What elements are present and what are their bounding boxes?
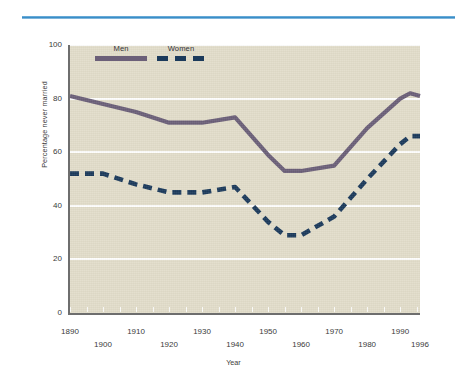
x-axis-tick-label: 1970: [314, 327, 354, 336]
y-axis-tick-label: 80: [22, 94, 62, 103]
legend-item-men[interactable]: Men: [95, 44, 147, 61]
legend-item-women[interactable]: Women: [157, 44, 205, 61]
x-axis-tick-label: 1980: [347, 340, 387, 349]
chart-legend: MenWomen: [95, 44, 235, 74]
y-axis-tick-label: 40: [22, 201, 62, 210]
x-axis-tick-label: 1996: [400, 340, 440, 349]
x-axis-line: [68, 313, 420, 315]
x-axis-tick-label: 1890: [50, 327, 90, 336]
legend-swatch-solid: [95, 56, 147, 61]
y-axis-tick-label: 20: [22, 254, 62, 263]
chart-figure: Percentage never married 020406080100 18…: [0, 0, 467, 385]
legend-label: Women: [157, 44, 205, 53]
plot-area: [70, 45, 420, 313]
x-axis-tick-label: 1900: [83, 340, 123, 349]
series-line-women: [70, 136, 420, 235]
legend-swatch-dashed: [157, 56, 205, 61]
x-axis-tick-label: 1950: [248, 327, 288, 336]
series-plot: [70, 45, 420, 313]
series-line-men: [70, 93, 420, 171]
x-axis-tick-label: 1940: [215, 340, 255, 349]
y-axis-tick-label: 60: [22, 147, 62, 156]
legend-label: Men: [95, 44, 147, 53]
y-axis-title: Percentage never married: [40, 45, 49, 205]
x-axis-title: Year: [0, 358, 467, 367]
x-axis-tick-label: 1930: [182, 327, 222, 336]
x-axis-tick-label: 1920: [149, 340, 189, 349]
y-axis-tick-label: 0: [22, 308, 62, 317]
y-axis-tick-label: 100: [22, 40, 62, 49]
divider-rule: [22, 16, 455, 19]
x-axis-tick-label: 1990: [380, 327, 420, 336]
x-axis-tick-label: 1910: [116, 327, 156, 336]
x-axis-tick-label: 1960: [281, 340, 321, 349]
